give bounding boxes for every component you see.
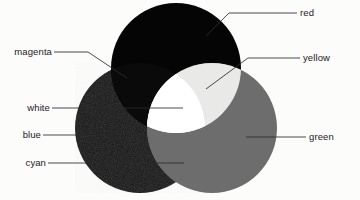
label-blue: blue — [0, 130, 41, 140]
label-cyan: cyan — [0, 158, 46, 168]
label-white: white — [0, 103, 50, 113]
label-yellow: yellow — [303, 53, 330, 63]
label-magenta: magenta — [0, 47, 52, 57]
venn-diagram-figure — [0, 0, 360, 200]
label-green: green — [309, 132, 334, 142]
label-red: red — [300, 8, 314, 18]
